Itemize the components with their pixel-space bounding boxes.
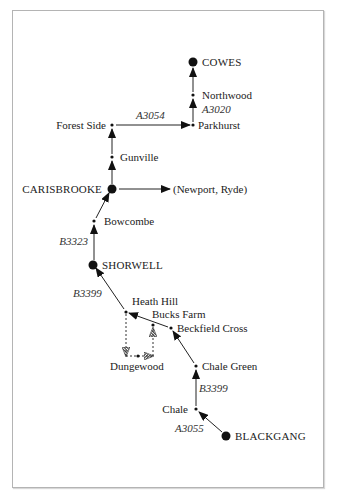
node-carisbrooke bbox=[108, 185, 117, 194]
label-shorwell: SHORWELL bbox=[102, 259, 163, 271]
label-chale: Chale bbox=[162, 403, 188, 415]
label-heath-hill: Heath Hill bbox=[132, 295, 178, 307]
road-label-a3020: A3020 bbox=[201, 103, 231, 115]
road-label-b3323: B3323 bbox=[59, 235, 88, 247]
road-label-a3054: A3054 bbox=[135, 109, 165, 121]
node-northwood bbox=[191, 93, 194, 96]
node-parkhurst bbox=[191, 123, 194, 126]
label-parkhurst: Parkhurst bbox=[198, 119, 240, 131]
route-diagram: COWES Northwood Parkhurst Forest Side Gu… bbox=[0, 0, 337, 502]
label-forest-side: Forest Side bbox=[56, 119, 106, 131]
label-bucks-farm: Bucks Farm bbox=[152, 308, 206, 320]
label-northwood: Northwood bbox=[202, 89, 253, 101]
node-heath-hill bbox=[124, 310, 127, 313]
node-chale bbox=[194, 407, 197, 410]
node-bucks-farm bbox=[151, 323, 154, 326]
node-shorwell bbox=[89, 261, 98, 270]
edge-chalegreen-beckfield bbox=[173, 331, 194, 363]
node-chale-green bbox=[194, 364, 197, 367]
node-blackgang bbox=[222, 432, 231, 441]
node-forest-side bbox=[110, 123, 113, 126]
node-gunville bbox=[110, 155, 113, 158]
road-label-b3399-north: B3399 bbox=[73, 287, 102, 299]
label-carisbrooke: CARISBROOKE bbox=[22, 183, 102, 195]
road-label-a3055: A3055 bbox=[174, 422, 204, 434]
label-chale-green: Chale Green bbox=[202, 360, 258, 372]
node-bowcombe bbox=[92, 219, 95, 222]
node-dungewood bbox=[136, 354, 139, 357]
label-gunville: Gunville bbox=[120, 151, 159, 163]
label-cowes: COWES bbox=[202, 56, 242, 68]
node-beckfield-cross bbox=[169, 326, 172, 329]
label-blackgang: BLACKGANG bbox=[235, 430, 306, 442]
label-newport-ryde: (Newport, Ryde) bbox=[173, 183, 247, 196]
node-cowes bbox=[189, 58, 198, 67]
label-beckfield-cross: Beckfield Cross bbox=[177, 322, 248, 334]
label-dungewood: Dungewood bbox=[110, 360, 164, 372]
road-label-b3399-south: B3399 bbox=[199, 382, 228, 394]
label-bowcombe: Bowcombe bbox=[104, 215, 154, 227]
